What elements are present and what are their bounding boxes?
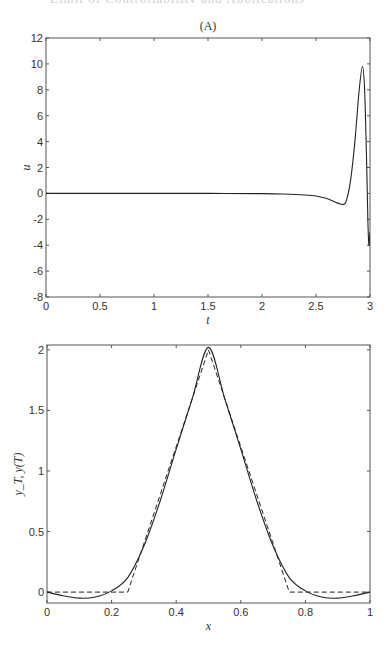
y-tick-label: 4 bbox=[37, 136, 43, 148]
chart-a: (A)00.511.522.53-8-6-4-2024681012tu bbox=[19, 19, 373, 327]
x-tick-label: 1 bbox=[367, 606, 373, 618]
y-axis-label: y_T, y(T) bbox=[11, 452, 25, 496]
y-tick-label: 0 bbox=[38, 586, 44, 598]
y-tick-label: 12 bbox=[31, 32, 43, 44]
series-line-solid bbox=[46, 66, 370, 245]
y-tick-label: 1 bbox=[38, 465, 44, 477]
x-tick-label: 2.5 bbox=[308, 300, 323, 312]
x-tick-label: 1 bbox=[151, 300, 157, 312]
chart-title: (A) bbox=[200, 19, 217, 33]
y-tick-label: 2 bbox=[37, 162, 43, 174]
x-tick-label: 0.8 bbox=[298, 606, 313, 618]
chart-b: 00.20.40.60.8100.511.52xy_T, y(T) bbox=[11, 344, 373, 633]
y-tick-label: 0 bbox=[37, 187, 43, 199]
y-axis-label: u bbox=[19, 165, 33, 171]
x-tick-label: 0 bbox=[43, 300, 49, 312]
series-line-dashed bbox=[47, 350, 370, 592]
axes-frame bbox=[46, 38, 370, 297]
x-tick-label: 1.5 bbox=[200, 300, 215, 312]
axes-frame bbox=[47, 345, 370, 603]
x-tick-label: 2 bbox=[259, 300, 265, 312]
y-tick-label: 10 bbox=[31, 58, 43, 70]
x-tick-label: 0.5 bbox=[92, 300, 107, 312]
y-tick-label: -6 bbox=[33, 265, 43, 277]
series-line-solid bbox=[47, 347, 370, 598]
x-axis-label: t bbox=[206, 313, 210, 327]
y-tick-label: -4 bbox=[33, 239, 43, 251]
x-axis-label: x bbox=[205, 619, 212, 633]
x-tick-label: 0.2 bbox=[104, 606, 119, 618]
x-tick-label: 0.4 bbox=[169, 606, 184, 618]
y-tick-label: 6 bbox=[37, 110, 43, 122]
y-tick-label: 8 bbox=[37, 84, 43, 96]
y-tick-label: -2 bbox=[33, 213, 43, 225]
x-tick-label: 0.6 bbox=[233, 606, 248, 618]
y-tick-label: 0.5 bbox=[29, 526, 44, 538]
x-tick-label: 0 bbox=[44, 606, 50, 618]
figure: (A)00.511.522.53-8-6-4-2024681012tu 00.2… bbox=[0, 0, 392, 645]
x-tick-label: 3 bbox=[367, 300, 373, 312]
y-tick-label: 1.5 bbox=[29, 404, 44, 416]
y-tick-label: 2 bbox=[38, 344, 44, 356]
y-tick-label: -8 bbox=[33, 291, 43, 303]
